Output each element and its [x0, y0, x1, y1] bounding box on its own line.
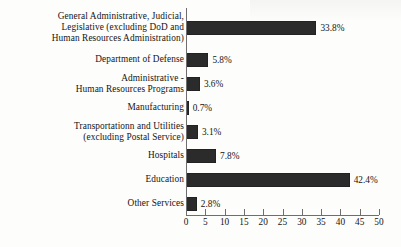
bar-rows-container: General Administrative, Judicial,Legisla…: [0, 8, 401, 216]
bar-value-label: 3.1%: [202, 127, 221, 137]
bar: [186, 21, 316, 35]
bar-group: 0.7%: [186, 101, 212, 115]
x-axis-tick: [283, 209, 284, 215]
x-axis-tick: [321, 209, 322, 215]
category-label: Hospitals: [6, 150, 184, 161]
x-axis-tick: [379, 209, 380, 215]
bar-value-label: 2.8%: [201, 199, 220, 209]
bar-row: Transportationn and Utilities(excluding …: [0, 120, 401, 144]
x-axis-tick: [360, 209, 361, 215]
category-label: Manufacturing: [6, 102, 184, 113]
bar-row: Manufacturing0.7%: [0, 96, 401, 120]
horizontal-bar-chart: General Administrative, Judicial,Legisla…: [0, 0, 401, 247]
x-axis-tick-label: 25: [278, 217, 287, 227]
category-label: Transportationn and Utilities(excluding …: [6, 121, 184, 143]
bar-group: 5.8%: [186, 53, 232, 67]
bar-value-label: 42.4%: [354, 175, 378, 185]
bar-group: 42.4%: [186, 173, 378, 187]
x-axis-tick: [263, 209, 264, 215]
x-axis-tick: [225, 209, 226, 215]
x-axis-tick-label: 45: [355, 217, 364, 227]
x-axis-tick-label: 35: [316, 217, 325, 227]
bar: [186, 149, 216, 163]
y-axis-line: [186, 8, 187, 215]
category-label: Administrative -Human Resources Programs: [6, 73, 184, 95]
x-axis-tick-label: 30: [297, 217, 306, 227]
x-axis-tick: [186, 209, 187, 215]
x-axis-tick-label: 40: [336, 217, 345, 227]
category-label: Other Services: [6, 198, 184, 209]
bar-row: Hospitals7.8%: [0, 144, 401, 168]
bar-value-label: 7.8%: [220, 151, 239, 161]
x-axis-tick-label: 50: [374, 217, 383, 227]
bar-value-label: 5.8%: [212, 55, 231, 65]
x-axis-tick: [205, 209, 206, 215]
bar-value-label: 3.6%: [204, 79, 223, 89]
bar-row: Education42.4%: [0, 168, 401, 192]
category-label: Department of Defense: [6, 54, 184, 65]
bar-value-label: 33.8%: [320, 23, 344, 33]
bar: [186, 53, 208, 67]
bar-group: 33.8%: [186, 21, 344, 35]
bar-group: 2.8%: [186, 197, 220, 211]
bar-group: 3.1%: [186, 125, 221, 139]
x-axis-tick: [244, 209, 245, 215]
bar-row: General Administrative, Judicial,Legisla…: [0, 8, 401, 48]
x-axis-tick-label: 0: [184, 217, 189, 227]
x-axis-tick-label: 10: [220, 217, 229, 227]
bar-group: 3.6%: [186, 77, 223, 91]
x-axis-line: [186, 215, 379, 216]
bar-row: Administrative -Human Resources Programs…: [0, 72, 401, 96]
bar-group: 7.8%: [186, 149, 239, 163]
x-axis-tick-label: 15: [239, 217, 248, 227]
bar: [186, 77, 200, 91]
category-label: General Administrative, Judicial,Legisla…: [6, 11, 184, 45]
x-axis-tick: [302, 209, 303, 215]
x-axis-tick-label: 20: [259, 217, 268, 227]
category-label: Education: [6, 174, 184, 185]
x-axis-tick-label: 5: [203, 217, 208, 227]
x-axis-tick: [340, 209, 341, 215]
bar: [186, 173, 350, 187]
bar: [186, 197, 197, 211]
bar-row: Department of Defense5.8%: [0, 48, 401, 72]
bar-value-label: 0.7%: [193, 103, 212, 113]
bar: [186, 125, 198, 139]
